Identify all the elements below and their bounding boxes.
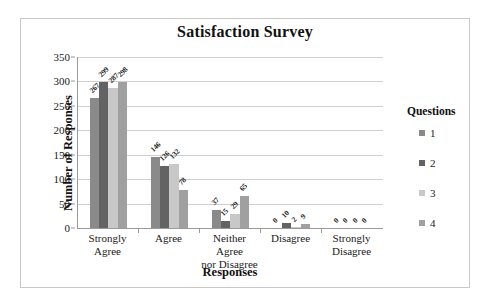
x-category-label: StronglyDisagree xyxy=(321,232,382,258)
bar-group xyxy=(90,57,128,228)
x-category-line: Disagree xyxy=(321,245,382,258)
plot-area: 2672992872981461261327837152965010290000 xyxy=(77,57,383,229)
bar[interactable] xyxy=(221,221,230,228)
bars xyxy=(273,57,311,228)
legend-label: 2 xyxy=(430,157,436,169)
bar[interactable] xyxy=(282,223,291,228)
x-category-label: Agree xyxy=(138,232,199,245)
legend-swatch-icon xyxy=(419,160,425,166)
bar[interactable] xyxy=(118,82,127,228)
bar[interactable] xyxy=(179,190,188,228)
y-tick-mark xyxy=(71,105,75,106)
x-category-line: Agree xyxy=(138,232,199,245)
legend-item[interactable]: 2 xyxy=(419,157,477,169)
bar[interactable] xyxy=(160,166,169,228)
x-axis-divider xyxy=(138,229,139,233)
bars xyxy=(212,57,250,228)
legend-item[interactable]: 1 xyxy=(419,127,477,139)
bar[interactable] xyxy=(108,88,117,228)
y-tick-label: 350 xyxy=(54,51,71,63)
bars xyxy=(151,57,189,228)
y-tick-mark xyxy=(71,130,75,131)
legend-items: 1234 xyxy=(407,127,477,229)
x-axis-title: Responses xyxy=(77,265,383,280)
x-category-line: Disagree xyxy=(260,232,321,245)
legend-swatch-icon xyxy=(419,220,425,226)
x-axis-divider xyxy=(321,229,322,233)
y-tick-label: 100 xyxy=(54,173,71,185)
x-axis-divider xyxy=(199,229,200,233)
y-tick-mark xyxy=(71,228,75,229)
bar-group xyxy=(151,57,189,228)
y-tick-label: 300 xyxy=(54,75,71,87)
y-tick-label: 50 xyxy=(59,198,70,210)
x-category-label: StronglyAgree xyxy=(77,232,138,258)
bar[interactable] xyxy=(99,82,108,228)
x-category-line: Agree xyxy=(77,245,138,258)
y-tick-label: 250 xyxy=(54,100,71,112)
bar[interactable] xyxy=(301,224,310,228)
bar[interactable] xyxy=(212,210,221,228)
legend-swatch-icon xyxy=(419,130,425,136)
bar[interactable] xyxy=(230,214,239,228)
bar-group xyxy=(212,57,250,228)
bars xyxy=(334,57,372,228)
y-tick-mark xyxy=(71,57,75,58)
legend-label: 1 xyxy=(430,127,436,139)
legend-title: Questions xyxy=(407,105,477,117)
bar-group xyxy=(273,57,311,228)
bar[interactable] xyxy=(169,164,178,228)
x-category-line: Strongly xyxy=(77,232,138,245)
y-tick-mark xyxy=(71,203,75,204)
chart-title: Satisfaction Survey xyxy=(21,23,469,41)
legend-item[interactable]: 3 xyxy=(419,187,477,199)
x-category-label: Disagree xyxy=(260,232,321,245)
x-category-line: Strongly xyxy=(321,232,382,245)
chart-frame: Satisfaction Survey Number of Responses … xyxy=(20,18,470,288)
y-tick-mark xyxy=(71,81,75,82)
legend-label: 4 xyxy=(430,217,436,229)
bars xyxy=(90,57,128,228)
bar[interactable] xyxy=(291,227,300,228)
y-tick-mark xyxy=(71,179,75,180)
legend: Questions 1234 xyxy=(407,105,477,247)
bar[interactable] xyxy=(90,98,99,228)
y-tick-mark xyxy=(71,154,75,155)
legend-label: 3 xyxy=(430,187,436,199)
legend-item[interactable]: 4 xyxy=(419,217,477,229)
y-tick-label: 200 xyxy=(54,124,71,136)
legend-swatch-icon xyxy=(419,190,425,196)
bar[interactable] xyxy=(240,196,249,228)
x-axis-divider xyxy=(260,229,261,233)
y-tick-label: 0 xyxy=(65,222,71,234)
bar-group xyxy=(334,57,372,228)
y-tick-label: 150 xyxy=(54,149,71,161)
x-category-line: Neither Agree xyxy=(199,232,260,258)
bar[interactable] xyxy=(151,157,160,228)
y-axis-tick-labels: 050100150200250300350 xyxy=(41,57,75,229)
